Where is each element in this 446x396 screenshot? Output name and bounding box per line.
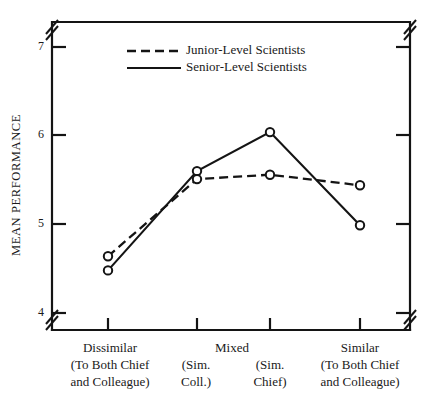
y-axis-ticks-right [396, 47, 410, 313]
junior-point-sim-coll [193, 175, 201, 183]
senior-point-similar [356, 221, 364, 229]
chart-figure: 7 6 5 4 MEAN PERFORMANCE [0, 0, 446, 396]
category-dissimilar-line1: Dissimilar [83, 340, 138, 355]
series-junior-level-scientists [104, 171, 364, 261]
category-label-sim-chief: (Sim. Chief) [253, 357, 286, 389]
y-tick-label-7: 7 [38, 39, 44, 53]
y-axis-tick-labels: 7 6 5 4 [38, 39, 44, 319]
y-axis-ticks-left [52, 47, 66, 313]
category-group-mixed: Mixed [215, 340, 249, 355]
senior-point-sim-chief [266, 128, 274, 136]
chart-legend: Junior-Level Scientists Senior-Level Sci… [127, 42, 307, 74]
category-sim-chief-line2: Chief) [253, 374, 286, 389]
category-sim-coll-line2: Coll.) [181, 374, 211, 389]
category-dissimilar-line2: (To Both Chief [71, 357, 150, 372]
category-sim-chief-line1: (Sim. [256, 357, 285, 372]
legend-label-senior: Senior-Level Scientists [186, 59, 307, 74]
category-sim-coll-line1: (Sim. [182, 357, 211, 372]
category-similar-line3: and Colleague) [320, 374, 399, 389]
legend-label-junior: Junior-Level Scientists [186, 42, 305, 57]
category-similar-line2: (To Both Chief [321, 357, 400, 372]
junior-point-similar [356, 181, 364, 189]
x-axis-ticks [108, 318, 360, 330]
legend-item-junior: Junior-Level Scientists [127, 42, 305, 57]
senior-point-dissimilar [104, 266, 112, 274]
y-axis-title: MEAN PERFORMANCE [9, 114, 23, 256]
category-label-sim-coll: (Sim. Coll.) [181, 357, 211, 389]
legend-item-senior: Senior-Level Scientists [127, 59, 307, 74]
category-label-similar: Similar (To Both Chief and Colleague) [320, 340, 399, 389]
category-similar-line1: Similar [341, 340, 380, 355]
junior-point-sim-chief [266, 171, 274, 179]
y-tick-label-5: 5 [38, 216, 44, 230]
line-chart-svg: 7 6 5 4 MEAN PERFORMANCE [0, 0, 446, 396]
category-dissimilar-line3: and Colleague) [70, 374, 149, 389]
junior-point-dissimilar [104, 252, 112, 260]
category-label-dissimilar: Dissimilar (To Both Chief and Colleague) [70, 340, 149, 389]
senior-line [108, 132, 360, 270]
series-senior-level-scientists [104, 128, 364, 275]
y-tick-label-4: 4 [38, 305, 44, 319]
y-tick-label-6: 6 [38, 127, 44, 141]
x-axis-category-labels: Dissimilar (To Both Chief and Colleague)… [70, 340, 399, 389]
